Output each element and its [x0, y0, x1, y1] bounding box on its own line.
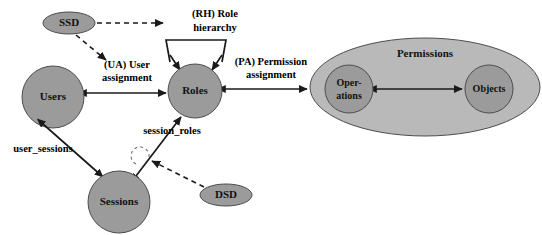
edge-dsd-to-session-roles[interactable] [152, 161, 204, 187]
node-operations[interactable]: Oper- ations [325, 65, 373, 113]
roles-label: Roles [182, 84, 208, 96]
rbac-diagram-canvas: Permissions Oper- ations Objects (PA) Pe… [0, 0, 542, 235]
node-dsd[interactable]: DSD [200, 184, 252, 206]
user-sessions-label: user_sessions [13, 143, 73, 154]
node-roles[interactable]: Roles [168, 64, 222, 118]
rh-label-line2: hierarchy [193, 22, 237, 33]
edge-ssd-to-user-assignment[interactable] [76, 35, 106, 60]
ua-label-line2: assignment [102, 72, 153, 83]
pa-label-line1: (PA) Permission [235, 56, 308, 68]
role-hierarchy-trapezoid [166, 40, 226, 62]
operations-label-line2: ations [336, 90, 362, 101]
rbac-diagram: Permissions Oper- ations Objects (PA) Pe… [0, 0, 542, 235]
node-users[interactable]: Users [22, 66, 84, 128]
rh-label-line1: (RH) Role [192, 8, 238, 20]
users-label: Users [40, 90, 67, 102]
dsd-label: DSD [215, 188, 237, 200]
node-sessions[interactable]: Sessions [88, 171, 150, 233]
objects-label: Objects [473, 83, 506, 94]
permissions-label: Permissions [397, 47, 454, 59]
ssd-label: SSD [59, 16, 79, 28]
session-roles-label: session_roles [143, 125, 201, 136]
node-ssd[interactable]: SSD [43, 12, 95, 34]
operations-circle-shape [325, 65, 373, 113]
operations-label-line1: Oper- [336, 77, 361, 88]
sessions-label: Sessions [100, 195, 139, 207]
rh-arrow-left [170, 55, 180, 70]
node-objects[interactable]: Objects [465, 65, 513, 113]
rh-arrow-right [212, 55, 222, 70]
pa-label-line2: assignment [246, 69, 297, 80]
ua-label-line1: (UA) User [104, 59, 150, 71]
